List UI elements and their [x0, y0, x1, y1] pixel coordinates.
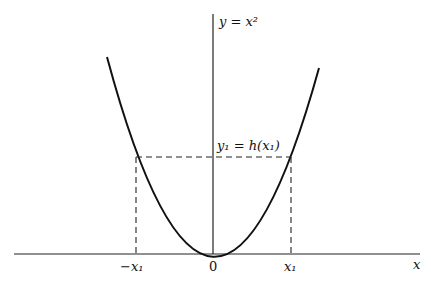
tick-label-pos-x1: x₁: [284, 260, 297, 273]
tick-label-origin: 0: [209, 260, 217, 273]
curve-label: y = x²: [219, 15, 258, 28]
point-label: y₁ = h(x₁): [217, 139, 280, 152]
diagram-canvas: [0, 0, 431, 283]
tick-label-neg-x1: −x₁: [120, 260, 143, 273]
x-axis-label: x: [413, 258, 420, 271]
